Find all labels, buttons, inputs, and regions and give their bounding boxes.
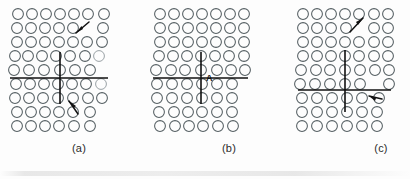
panel-b-caption: (b)	[140, 142, 294, 154]
panel-b-lattice: A	[140, 0, 270, 142]
figure-root: (a)	[0, 0, 410, 179]
upper-arrow-c	[350, 18, 363, 32]
panel-b: A (b)	[140, 0, 270, 179]
panel-a: (a)	[0, 0, 130, 179]
panel-c-caption: (c)	[278, 142, 410, 154]
atom-grid-a	[9, 9, 110, 132]
panel-a-lattice	[0, 0, 130, 142]
panel-a-caption: (a)	[0, 142, 144, 154]
page-scan-artifact	[0, 171, 410, 176]
panel-c: (c)	[278, 0, 408, 179]
panel-c-lattice	[278, 0, 408, 142]
site-a-label: A	[206, 73, 213, 83]
right-arrow-c	[369, 96, 382, 101]
